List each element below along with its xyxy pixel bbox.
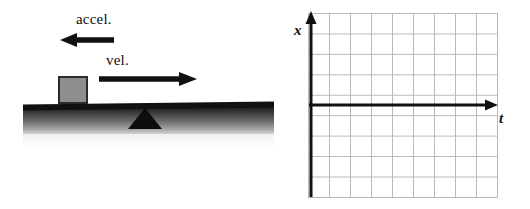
- figure-root: accel. vel. x t: [0, 0, 530, 209]
- acceleration-arrow-left-icon: [60, 33, 114, 47]
- velocity-label: vel.: [106, 52, 129, 69]
- block-mass: [58, 76, 88, 104]
- velocity-arrow-right-icon: [99, 72, 197, 86]
- graph-axes: [285, 0, 530, 209]
- y-axis-label: x: [294, 22, 302, 39]
- ground-fade: [23, 134, 274, 148]
- position-time-graph: x t: [285, 0, 530, 209]
- seesaw-diagram: accel. vel.: [0, 0, 285, 209]
- x-axis-label: t: [499, 110, 503, 127]
- acceleration-label: accel.: [76, 11, 112, 28]
- fulcrum-triangle-icon: [128, 108, 162, 129]
